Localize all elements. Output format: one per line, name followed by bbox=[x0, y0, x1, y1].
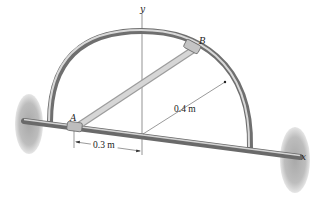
link-ab-face bbox=[75, 50, 193, 128]
y-axis-label: y bbox=[139, 4, 146, 14]
radius-endpoint bbox=[224, 81, 226, 83]
horizontal-shaft bbox=[24, 121, 300, 157]
mechanism-diagram: y x A B 0.4 m 0.3 m bbox=[0, 0, 319, 212]
offset-arrow-right bbox=[136, 149, 141, 152]
horizontal-shaft-highlight bbox=[24, 120, 300, 156]
offset-label: 0.3 m bbox=[93, 140, 115, 150]
point-b-label: B bbox=[198, 36, 206, 46]
x-axis-label: x bbox=[301, 152, 306, 162]
point-a-label: A bbox=[69, 113, 77, 123]
offset-arrow-left bbox=[75, 141, 80, 144]
diagram-canvas: y x A B 0.4 m 0.3 m bbox=[0, 0, 319, 212]
radius-label: 0.4 m bbox=[174, 104, 196, 114]
